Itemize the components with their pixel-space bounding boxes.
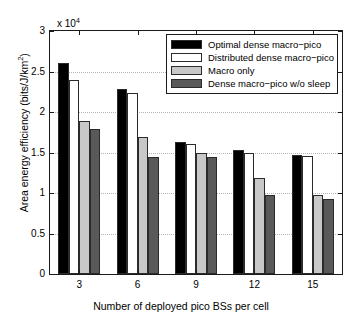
x-axis-tick <box>196 270 197 275</box>
y-axis-title: Area energy efficiency (bits/J/km2) <box>16 18 30 248</box>
y-axis-tick-right <box>338 193 343 194</box>
bar <box>175 142 186 274</box>
bar <box>58 63 69 274</box>
legend-label: Macro only <box>208 66 254 76</box>
y-axis-tick <box>49 274 54 275</box>
bar <box>186 144 197 274</box>
y-axis-tick <box>49 72 54 73</box>
bar <box>323 199 334 274</box>
x-axis-tick <box>79 270 80 275</box>
x-axis-tick <box>138 270 139 275</box>
y-axis-tick <box>49 153 54 154</box>
x-axis-tick-label: 3 <box>59 280 99 290</box>
bar <box>117 89 128 274</box>
bar <box>207 157 218 274</box>
legend-item: Distributed dense macro−pico <box>171 51 333 64</box>
legend-label: Optimal dense macro−pico <box>208 40 321 50</box>
y-gridline <box>50 112 342 113</box>
x-axis-tick <box>313 270 314 275</box>
x-axis-tick-label: 9 <box>176 280 216 290</box>
y-axis-tick-label: 2.5 <box>3 67 45 77</box>
bar <box>233 150 244 274</box>
x-axis-tick-label: 12 <box>234 280 274 290</box>
bar <box>292 155 303 274</box>
bar <box>69 80 80 274</box>
y-axis-exponent-base: x 10 <box>57 18 76 29</box>
bar-chart-figure: x 104 Area energy efficiency (bits/J/km2… <box>0 0 362 327</box>
bar <box>254 178 265 274</box>
y-axis-tick-label: 2 <box>3 107 45 117</box>
bar <box>148 157 159 274</box>
y-axis-tick <box>49 31 54 32</box>
y-axis-tick-label: 3 <box>3 26 45 36</box>
legend-swatch <box>171 53 202 62</box>
y-axis-exponent: x 104 <box>57 16 80 29</box>
y-axis-exponent-power: 4 <box>76 17 80 24</box>
bar <box>302 156 313 274</box>
y-axis-tick-right <box>338 72 343 73</box>
x-axis-tick-top <box>138 30 139 35</box>
bar <box>127 93 138 274</box>
bar <box>196 153 207 275</box>
bar <box>90 129 101 274</box>
bar <box>138 137 149 274</box>
bar <box>244 153 255 274</box>
bar <box>313 195 324 274</box>
legend-swatch <box>171 40 202 49</box>
y-axis-tick <box>49 234 54 235</box>
y-axis-tick-right <box>338 31 343 32</box>
legend-item: Optimal dense macro−pico <box>171 38 333 51</box>
x-axis-title: Number of deployed pico BSs per cell <box>0 300 362 312</box>
y-axis-tick-label: 1 <box>3 188 45 198</box>
y-axis-tick-label: 0 <box>3 269 45 279</box>
x-axis-tick-label: 15 <box>293 280 333 290</box>
legend-label: Distributed dense macro−pico <box>208 53 334 63</box>
y-axis-title-tail: ) <box>18 53 30 57</box>
y-axis-tick-right <box>338 234 343 235</box>
y-axis-tick <box>49 112 54 113</box>
x-axis-tick <box>254 270 255 275</box>
x-axis-tick-label: 6 <box>118 280 158 290</box>
y-axis-tick-right <box>338 153 343 154</box>
y-axis-title-superscript: 2 <box>16 57 25 61</box>
legend-label: Dense macro−pico w/o sleep <box>208 79 330 89</box>
x-axis-tick-top <box>79 30 80 35</box>
y-axis-tick <box>49 193 54 194</box>
bar <box>79 121 90 274</box>
legend-item: Dense macro−pico w/o sleep <box>171 77 333 90</box>
chart-legend: Optimal dense macro−picoDistributed dens… <box>166 34 338 94</box>
y-axis-tick-label: 1.5 <box>3 148 45 158</box>
y-axis-tick-right <box>338 112 343 113</box>
bar <box>265 195 276 274</box>
y-axis-tick-label: 0.5 <box>3 229 45 239</box>
legend-swatch <box>171 79 202 88</box>
y-axis-tick-right <box>338 274 343 275</box>
legend-item: Macro only <box>171 64 333 77</box>
legend-swatch <box>171 66 202 75</box>
